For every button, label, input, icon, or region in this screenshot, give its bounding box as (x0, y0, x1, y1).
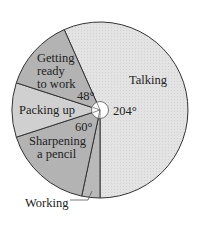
angle-label-talking: 204° (113, 104, 137, 118)
label-getting-ready-line3: to work (37, 77, 76, 91)
pie-chart: Talking Getting ready to work 48° Packin… (0, 0, 199, 226)
label-sharpening-line2: a pencil (37, 147, 77, 161)
label-packing-up: Packing up (19, 103, 75, 117)
label-getting-ready-line1: Getting (37, 51, 75, 65)
label-working: Working (25, 196, 69, 210)
label-sharpening-line1: Sharpening (29, 134, 87, 148)
label-getting-ready-line2: ready (37, 64, 66, 78)
label-talking: Talking (129, 73, 168, 87)
angle-label-sharpening: 60° (75, 120, 93, 134)
angle-label-getting-ready: 48° (77, 89, 95, 103)
